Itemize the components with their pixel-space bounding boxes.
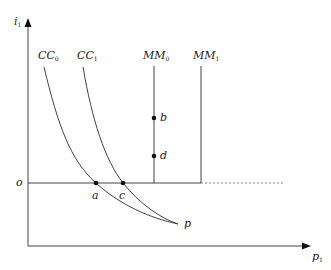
- point-c-marker: [121, 181, 126, 186]
- point-a-marker: [94, 181, 99, 186]
- cc1-label: CC1: [77, 50, 98, 62]
- mm1-label: MM1: [193, 50, 219, 62]
- point-d-marker: [152, 154, 157, 159]
- mm0-label: MM0: [143, 50, 169, 62]
- point-d-label: d: [160, 150, 167, 161]
- y-axis-arrow-icon: [25, 18, 32, 27]
- y-axis-label: i1: [14, 16, 21, 28]
- point-b-label: b: [160, 112, 167, 123]
- point-a-label: a: [92, 190, 99, 201]
- cc0-label: CC0: [38, 50, 59, 62]
- cc0-curve: [44, 67, 178, 224]
- point-c-label: c: [119, 190, 125, 201]
- x-axis-label: p1: [312, 251, 323, 263]
- x-axis-arrow-icon: [302, 243, 311, 250]
- diagram-canvas: i1 p1 o CC0 CC1 MM0 MM1 a b c d p: [0, 0, 331, 270]
- origin-label: o: [16, 177, 23, 188]
- point-b-marker: [152, 116, 157, 121]
- point-p-label: p: [184, 218, 191, 229]
- diagram-svg: [0, 0, 331, 270]
